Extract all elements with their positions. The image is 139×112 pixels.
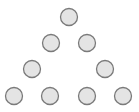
circle-node-row4-3 [79, 88, 96, 105]
circle-node-row2-2 [79, 35, 96, 52]
circle-node-row2-1 [43, 35, 60, 52]
circle-diagram [0, 0, 139, 112]
circle-node-row3-1 [24, 61, 41, 78]
circle-node-row4-4 [115, 88, 132, 105]
circle-node-row4-1 [6, 88, 23, 105]
circle-node-row4-2 [42, 88, 59, 105]
circle-node-row3-2 [97, 61, 114, 78]
circle-node-row1-1 [61, 9, 78, 26]
